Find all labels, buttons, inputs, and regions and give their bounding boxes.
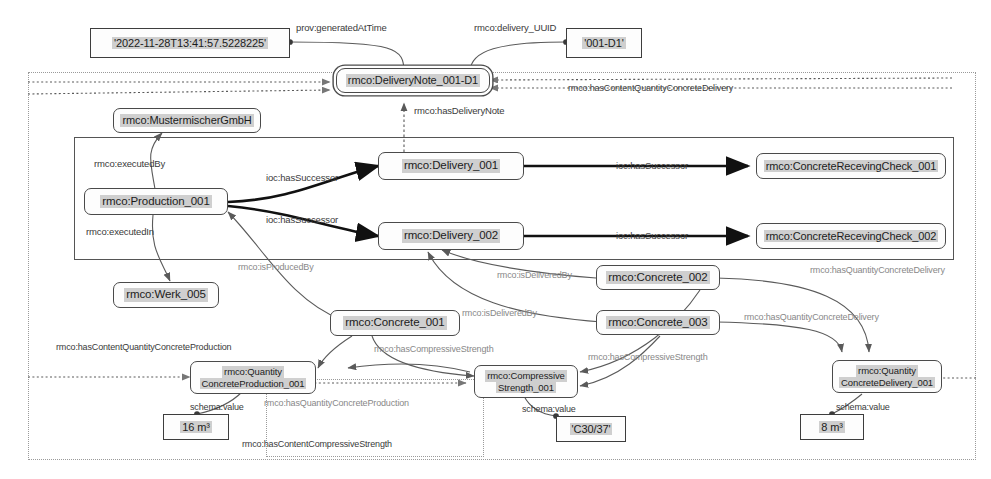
node-werk-005[interactable]: rmco:Werk_005 bbox=[113, 282, 219, 308]
node-concrete-003[interactable]: rmco:Concrete_003 bbox=[596, 310, 720, 335]
node-value-8m3[interactable]: 8 m³ bbox=[800, 414, 864, 440]
node-concrete-receving-check-002-label: rmco:ConcreteRecevingCheck_002 bbox=[764, 230, 939, 243]
node-concrete-receving-check-002[interactable]: rmco:ConcreteRecevingCheck_002 bbox=[756, 223, 946, 249]
edge-label-schema-value-production: schema:value bbox=[190, 402, 244, 412]
edge-label-has-quantity-concrete-delivery-1: rmco:hasQuantityConcreteDelivery bbox=[744, 312, 879, 322]
node-value-8m3-label: 8 m³ bbox=[819, 421, 845, 434]
node-delivery-002[interactable]: rmco:Delivery_002 bbox=[378, 222, 524, 250]
edge-label-has-quantity-concrete-production: rmco:hasQuantityConcreteProduction bbox=[264, 398, 409, 408]
edge-label-delivery-uuid: rmco:delivery_UUID bbox=[474, 22, 556, 33]
node-concrete-001-label: rmco:Concrete_001 bbox=[343, 316, 446, 330]
edge-label-has-quantity-concrete-delivery-2: rmco:hasQuantityConcreteDelivery bbox=[810, 265, 945, 275]
edge-label-has-successor-delivery-002-check: ioc:hasSuccessor bbox=[616, 230, 688, 241]
edge-label-is-delivered-by-concrete-003: rmco:isDeliveredBy bbox=[462, 308, 537, 318]
node-delivery-002-label: rmco:Delivery_002 bbox=[402, 229, 500, 243]
edge-label-is-produced-by: rmco:isProducedBy bbox=[238, 262, 313, 272]
node-qty-delivery-line2: ConcreteDelivery_001 bbox=[839, 377, 935, 388]
node-delivery-uuid[interactable]: '001-D1' bbox=[566, 28, 642, 58]
edge-label-is-delivered-by-concrete-002: rmco:isDeliveredBy bbox=[497, 270, 572, 280]
node-value-c3037-label: 'C30/37' bbox=[570, 423, 613, 436]
node-concrete-001[interactable]: rmco:Concrete_001 bbox=[330, 310, 460, 336]
edge-label-executed-by: rmco:executedBy bbox=[94, 158, 165, 169]
node-quantity-concrete-delivery-001[interactable]: rmco:Quantity ConcreteDelivery_001 bbox=[832, 360, 942, 393]
node-generated-at-time-label: '2022-11-28T13:41:57.5228225' bbox=[112, 37, 268, 50]
edge-label-executed-in: rmco:executedIn bbox=[86, 226, 154, 237]
node-qty-production-line1: rmco:Quantity bbox=[222, 366, 284, 377]
node-delivery-001-label: rmco:Delivery_001 bbox=[402, 159, 500, 173]
node-quantity-concrete-production-001[interactable]: rmco:Quantity ConcreteProduction_001 bbox=[190, 361, 316, 394]
node-production-001-label: rmco:Production_001 bbox=[100, 195, 211, 209]
node-value-16m3[interactable]: 16 m³ bbox=[163, 414, 229, 440]
edge-label-has-successor-delivery-001-check: ioc:hasSuccessor bbox=[616, 160, 688, 171]
node-compressive-strength-line1: rmco:Compressive bbox=[485, 370, 567, 381]
node-concrete-receving-check-001[interactable]: rmco:ConcreteRecevingCheck_001 bbox=[756, 153, 946, 179]
diagram-canvas: '2022-11-28T13:41:57.5228225' '001-D1' r… bbox=[0, 0, 991, 479]
node-delivery-note[interactable]: rmco:DeliveryNote_001-D1 bbox=[336, 68, 490, 93]
node-mustermischer-label: rmco:MustermischerGmbH bbox=[120, 114, 253, 127]
node-delivery-001[interactable]: rmco:Delivery_001 bbox=[378, 152, 524, 180]
node-werk-005-label: rmco:Werk_005 bbox=[124, 288, 208, 302]
node-concrete-receving-check-001-label: rmco:ConcreteRecevingCheck_001 bbox=[764, 160, 939, 173]
node-value-16m3-label: 16 m³ bbox=[180, 421, 212, 434]
node-mustermischer[interactable]: rmco:MustermischerGmbH bbox=[113, 108, 261, 133]
edge-label-has-compressive-strength-2: rmco:hasCompressiveStrength bbox=[588, 352, 708, 362]
node-compressive-strength-001[interactable]: rmco:Compressive Strength_001 bbox=[474, 365, 578, 398]
node-concrete-002-label: rmco:Concrete_002 bbox=[606, 271, 709, 285]
edge-label-has-delivery-note: rmco:hasDeliveryNote bbox=[414, 105, 504, 116]
edge-label-prov-generated-at-time: prov:generatedAtTime bbox=[296, 22, 387, 33]
edge-label-has-compressive-strength-1: rmco:hasCompressiveStrength bbox=[374, 344, 494, 354]
node-value-c3037[interactable]: 'C30/37' bbox=[556, 416, 626, 442]
edge-label-has-successor-production-delivery-001: ioc:hasSuccessor bbox=[266, 172, 338, 183]
node-concrete-002[interactable]: rmco:Concrete_002 bbox=[596, 265, 720, 290]
node-delivery-uuid-label: '001-D1' bbox=[582, 37, 625, 50]
node-concrete-003-label: rmco:Concrete_003 bbox=[606, 316, 709, 330]
edge-label-schema-value-strength: schema:value bbox=[522, 404, 576, 414]
node-qty-production-line2: ConcreteProduction_001 bbox=[200, 378, 307, 389]
edge-label-has-content-compressive-strength: rmco:hasContentCompressiveStrength bbox=[242, 439, 392, 449]
edge-label-has-successor-production-delivery-002: ioc:hasSuccessor bbox=[266, 214, 338, 225]
node-qty-delivery-line1: rmco:Quantity bbox=[856, 365, 918, 376]
node-compressive-strength-line2: Strength_001 bbox=[496, 382, 556, 393]
edge-label-schema-value-delivery: schema:value bbox=[836, 402, 890, 412]
node-delivery-note-label: rmco:DeliveryNote_001-D1 bbox=[346, 74, 480, 87]
node-production-001[interactable]: rmco:Production_001 bbox=[84, 188, 228, 215]
edge-label-has-content-quantity-concrete-delivery: rmco:hasContentQuantityConcreteDelivery bbox=[568, 83, 733, 93]
edge-label-has-content-quantity-concrete-production: rmco:hasContentQuantityConcreteProductio… bbox=[56, 342, 231, 352]
node-generated-at-time[interactable]: '2022-11-28T13:41:57.5228225' bbox=[90, 28, 290, 58]
